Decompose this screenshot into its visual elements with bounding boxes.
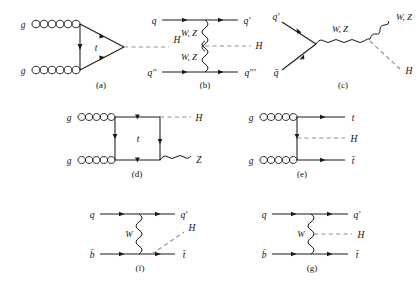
panel-b: q q'' q' q''' H W, Z W, Z (b)	[148, 16, 264, 91]
particle-label-bbar-in: b̄	[262, 249, 267, 260]
wz-boson-out-line	[370, 21, 389, 39]
particle-label-q-out: q'	[181, 210, 189, 220]
particle-label-H-out: H	[195, 113, 204, 123]
particle-label-q-in: q	[90, 210, 95, 220]
fermion-arrow-icon	[182, 70, 188, 75]
fermion-arrow-icon	[218, 18, 224, 23]
fermion-arrow-icon	[291, 252, 297, 257]
boson-label-w: W	[297, 229, 306, 239]
diagram-canvas: g g t H (a) q q'' q' q''' H W, Z W	[0, 0, 418, 284]
particle-label-q-in1: q'	[273, 12, 281, 22]
higgs-line	[152, 232, 184, 254]
gluon-icon	[32, 66, 80, 74]
particle-label-q-in2: q''	[148, 68, 158, 78]
particle-label-tbar-out: t̄	[356, 250, 360, 260]
boson-label-wz-out: W, Z	[396, 12, 413, 22]
particle-label-q-in: q	[262, 210, 267, 220]
fermion-arrow-icon	[155, 252, 161, 257]
panel-caption-d: (d)	[132, 169, 143, 179]
fermion-arrow-icon	[182, 18, 188, 23]
particle-label-bbar-in: b̄	[90, 249, 95, 260]
fermion-arrow-icon	[78, 44, 83, 50]
gluon-icon	[78, 157, 115, 164]
z-boson-line	[160, 156, 191, 161]
gluon-icon	[78, 114, 115, 121]
gluon-icon	[260, 114, 297, 121]
fermion-arrow-icon	[320, 115, 326, 120]
particle-label-tbar-out: t̄	[352, 156, 356, 166]
particle-label-H-out: H	[255, 41, 264, 51]
particle-label-g-in1: g	[21, 20, 26, 30]
boson-label-wz-propagator: W, Z	[332, 24, 349, 34]
particle-label-q-out1: q'	[244, 16, 252, 26]
gluon-icon	[260, 157, 297, 164]
fermion-arrow-icon	[291, 212, 297, 217]
panel-f: q b̄ q' H t̄ W (f)	[90, 210, 197, 274]
particle-label-q-out: q'	[354, 210, 362, 220]
particle-label-g-in2: g	[67, 156, 72, 166]
panel-c: q' q̄ W, Z W, Z H (c)	[273, 12, 414, 91]
wz-propagator-line	[316, 39, 370, 44]
particle-label-t-loop: t	[137, 134, 140, 144]
fermion-arrow-icon	[320, 158, 326, 163]
boson-label-wz-bottom: W, Z	[181, 52, 198, 62]
panel-d: g g t H Z (d)	[67, 113, 204, 180]
particle-label-g-in2: g	[21, 66, 26, 76]
particle-label-t-loop: t	[95, 43, 98, 53]
w-boson-line	[136, 214, 142, 254]
boson-label-w: W	[125, 229, 134, 239]
panel-caption-f: (f)	[136, 263, 145, 273]
antiquark-line-in-bottom	[282, 44, 316, 70]
particle-label-q-in1: q	[152, 16, 157, 26]
panel-e: g g t H t̄ (e)	[249, 113, 359, 180]
panel-caption-c: (c)	[338, 80, 348, 90]
particle-label-qbar-in2: q̄	[274, 68, 279, 78]
fermion-arrow-icon	[113, 134, 118, 139]
particle-label-g-in1: g	[67, 113, 72, 123]
fermion-arrow-icon	[327, 252, 333, 257]
particle-label-H-out: H	[188, 223, 197, 233]
panel-caption-e: (e)	[297, 169, 307, 179]
gluon-icon	[32, 20, 80, 28]
particle-label-H-out: H	[350, 134, 359, 144]
fermion-arrow-icon	[297, 28, 302, 33]
particle-label-t-out: t	[352, 113, 355, 123]
particle-label-H-out: H	[357, 230, 366, 240]
fermion-arrow-icon	[119, 212, 125, 217]
boson-label-wz-top: W, Z	[181, 28, 198, 38]
panel-caption-a: (a)	[96, 80, 106, 90]
panel-a: g g t H (a)	[21, 20, 182, 91]
particle-label-g-in2: g	[249, 156, 254, 166]
fermion-arrow-icon	[218, 70, 224, 75]
feynman-figure: g g t H (a) q q'' q' q''' H W, Z W	[0, 0, 418, 284]
particle-label-q-out2: q'''	[245, 68, 257, 78]
panel-caption-g: (g)	[307, 263, 318, 273]
particle-label-Z-out: Z	[196, 155, 202, 165]
fermion-arrow-icon	[327, 212, 333, 217]
particle-label-tbar-out: t̄	[183, 250, 187, 260]
higgs-line	[370, 41, 400, 69]
particle-label-H-out: H	[405, 66, 414, 76]
fermion-arrow-icon	[158, 139, 163, 144]
fermion-arrow-icon	[119, 252, 125, 257]
panel-g: q b̄ q' H t̄ W (g)	[262, 210, 366, 274]
panel-caption-b: (b)	[200, 80, 211, 90]
w-boson-line	[308, 214, 314, 254]
particle-label-g-in1: g	[249, 113, 254, 123]
fermion-arrow-icon	[155, 212, 161, 217]
